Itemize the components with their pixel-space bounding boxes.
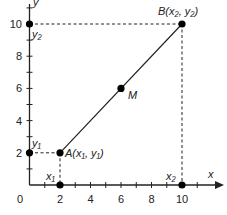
x-tick-label: 6 bbox=[118, 193, 124, 205]
y2-label: y₂ bbox=[31, 28, 43, 40]
x-axis-label: x bbox=[207, 168, 214, 180]
x1-label: x₁ bbox=[45, 170, 56, 182]
x-tick-label: 10 bbox=[176, 193, 188, 205]
x-tick-label: 8 bbox=[148, 193, 154, 205]
y-tick-label: 8 bbox=[16, 50, 22, 62]
x2-label: x₂ bbox=[165, 170, 177, 182]
x-tick-label: 2 bbox=[57, 193, 63, 205]
point-a-label: A(x₁, y₁) bbox=[64, 147, 104, 159]
point-b bbox=[178, 20, 185, 27]
x-axis-arrow-icon bbox=[215, 181, 224, 189]
y1-label: y₁ bbox=[31, 137, 42, 149]
point-y1 bbox=[26, 149, 33, 156]
y-tick-label: 6 bbox=[16, 82, 22, 94]
point-m-label: M bbox=[128, 89, 138, 101]
point-x2 bbox=[178, 181, 185, 188]
origin-label: 0 bbox=[17, 193, 23, 205]
midpoint-diagram: 0 2 4 6 8 10 2 4 6 8 10 x y A(x₁, y₁) B(… bbox=[0, 0, 227, 215]
point-y2 bbox=[26, 20, 33, 27]
point-m bbox=[117, 85, 124, 92]
point-a bbox=[56, 149, 63, 156]
x-tick-label: 4 bbox=[87, 193, 93, 205]
y-axis-label: y bbox=[32, 0, 40, 8]
point-b-label: B(x₂, y₂) bbox=[158, 5, 199, 17]
axes bbox=[30, 4, 223, 185]
y-tick-label: 4 bbox=[16, 115, 22, 127]
y-tick-label: 10 bbox=[10, 18, 22, 30]
y-tick-label: 2 bbox=[16, 147, 22, 159]
point-x1 bbox=[56, 181, 63, 188]
